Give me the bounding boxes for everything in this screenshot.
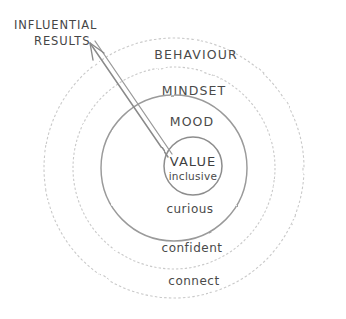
callout-label: INFLUENTIAL RESULTS (14, 18, 97, 48)
diagram-canvas: BEHAVIOUR MINDSET MOOD VALUE inclusive c… (0, 0, 346, 319)
label-confident: confident (162, 241, 223, 255)
core-value: VALUE inclusive (164, 137, 222, 195)
concentric-circles-diagram: BEHAVIOUR MINDSET MOOD VALUE inclusive c… (0, 0, 346, 319)
core-value-title: VALUE (170, 154, 216, 169)
callout-line-2: RESULTS (34, 34, 90, 48)
core-value-subtitle: inclusive (169, 170, 218, 182)
ring-mood-label: MOOD (170, 114, 215, 129)
ring-behaviour-label: BEHAVIOUR (154, 47, 237, 62)
label-connect: connect (168, 274, 219, 288)
lower-labels: curious confident connect (162, 202, 223, 288)
callout-line-1: INFLUENTIAL (14, 18, 97, 32)
label-curious: curious (166, 202, 213, 216)
